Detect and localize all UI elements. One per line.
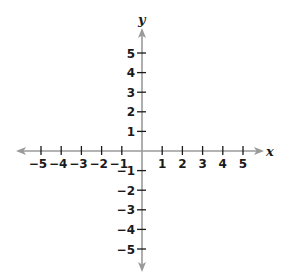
x-axis-label: x — [265, 144, 274, 159]
y-tick-label: 5 — [127, 47, 135, 61]
x-tick-label: 4 — [219, 157, 227, 171]
y-tick-label: −3 — [117, 203, 135, 217]
y-tick-label: −1 — [117, 164, 135, 178]
x-ticks: −5−4−3−2−112345 — [29, 146, 247, 171]
y-tick-label: 3 — [127, 86, 135, 100]
coordinate-plane: −5−4−3−2−112345 54321−1−2−3−4−5 x y — [0, 0, 292, 276]
x-tick-label: −2 — [89, 157, 107, 171]
y-tick-label: −5 — [117, 243, 135, 257]
y-tick-label: 4 — [127, 66, 135, 80]
y-tick-label: 2 — [127, 105, 135, 119]
y-axis-label: y — [137, 12, 147, 27]
y-tick-label: 1 — [127, 125, 135, 139]
x-tick-label: 3 — [198, 157, 206, 171]
y-tick-label: −4 — [117, 223, 135, 237]
x-tick-label: −3 — [69, 157, 87, 171]
x-tick-label: 2 — [178, 157, 186, 171]
x-tick-label: −5 — [29, 157, 47, 171]
y-tick-label: −2 — [117, 184, 135, 198]
x-tick-label: 1 — [158, 157, 166, 171]
x-tick-label: −4 — [49, 157, 67, 171]
x-tick-label: 5 — [239, 157, 247, 171]
